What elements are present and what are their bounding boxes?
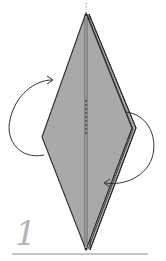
- step-number: 1: [15, 216, 37, 250]
- origami-diagram: 1: [0, 0, 166, 261]
